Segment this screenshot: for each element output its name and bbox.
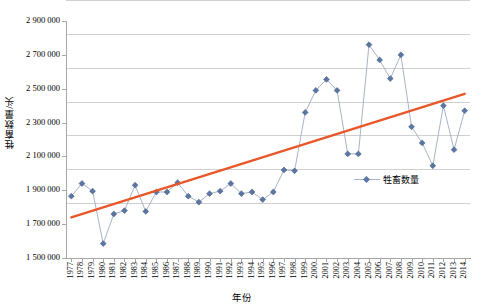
data-point-marker	[334, 88, 340, 94]
x-tick-label: 1983	[131, 262, 139, 278]
data-point-marker	[260, 197, 266, 203]
data-point-marker	[90, 188, 96, 194]
y-tick-label: 1 900 000	[0, 185, 60, 194]
data-point-marker	[324, 77, 330, 83]
x-tick-label: 1994	[248, 262, 256, 278]
x-tick-label: 1989	[194, 262, 202, 278]
x-tick-label: 1979	[88, 262, 96, 278]
y-tick-label: 2 900 000	[0, 16, 60, 25]
gridline-horizontal	[66, 0, 470, 1]
x-tick-label: 1997	[279, 262, 287, 278]
data-point-marker	[398, 52, 404, 58]
x-tick-label: 1981	[109, 262, 117, 278]
x-tick-label: 2004	[354, 262, 362, 278]
data-point-marker	[419, 140, 425, 146]
data-point-marker	[68, 193, 74, 199]
series-markers	[68, 42, 467, 247]
x-tick-label: 1996	[269, 262, 277, 278]
legend-label-livestock: 牲畜数量	[383, 173, 419, 186]
y-tick-label: 2 100 000	[0, 151, 60, 160]
data-point-marker	[100, 241, 106, 247]
gridline-horizontal	[66, 68, 470, 69]
data-point-marker	[313, 88, 319, 94]
data-point-marker	[111, 211, 117, 217]
x-tick-label: 2008	[396, 262, 404, 278]
x-tick-label: 2000	[311, 262, 319, 278]
data-point-marker	[451, 147, 457, 153]
data-point-marker	[387, 76, 393, 82]
x-tick-label: 1993	[237, 262, 245, 278]
x-tick-label: 2014	[460, 262, 468, 278]
data-point-marker	[366, 42, 372, 48]
x-tick-label: 1978	[77, 262, 85, 278]
data-point-marker	[143, 209, 149, 215]
x-tick-label: 2003	[343, 262, 351, 278]
data-point-marker	[79, 181, 85, 187]
x-tick-label: 1987	[173, 262, 181, 278]
y-tick-label: 1 700 000	[0, 219, 60, 228]
livestock-line-chart: 牲畜数量/头 1 500 0001 700 0001 900 0002 100 …	[0, 0, 483, 308]
x-axis-line	[66, 258, 471, 259]
data-point-marker	[207, 191, 213, 197]
chart-legend: 牲畜数量	[352, 172, 421, 187]
x-tick-label: 1986	[163, 262, 171, 278]
data-point-marker	[196, 199, 202, 205]
x-tick-label: 2013	[450, 262, 458, 278]
data-point-marker	[302, 110, 308, 116]
data-point-marker	[249, 189, 255, 195]
data-point-marker	[462, 108, 468, 114]
data-point-marker	[377, 57, 383, 63]
gridline-horizontal	[66, 169, 470, 170]
data-point-marker	[228, 181, 234, 187]
y-tick-label: 2 700 000	[0, 50, 60, 59]
gridline-horizontal	[66, 135, 470, 136]
data-point-marker	[270, 189, 276, 195]
data-point-marker	[122, 208, 128, 214]
x-tick-label: 2010	[418, 262, 426, 278]
x-tick-label: 2012	[439, 262, 447, 278]
x-tick-label: 2011	[428, 262, 436, 278]
data-point-marker	[153, 189, 159, 195]
x-tick-label: 1995	[258, 262, 266, 278]
x-tick-label: 1998	[290, 262, 298, 278]
data-point-marker	[217, 188, 223, 194]
gridline-horizontal	[66, 34, 470, 35]
legend-marker-icon	[354, 175, 380, 184]
x-tick-label: 1988	[184, 262, 192, 278]
data-point-marker	[345, 151, 351, 157]
gridline-horizontal	[66, 203, 470, 204]
gridline-horizontal	[66, 102, 470, 103]
data-point-marker	[164, 189, 170, 195]
x-tick-label: 1977	[67, 262, 75, 278]
data-point-marker	[441, 103, 447, 109]
x-tick-label: 1980	[99, 262, 107, 278]
x-tick-label: 2005	[365, 262, 373, 278]
x-tick-label: 1992	[226, 262, 234, 278]
x-tick-label: 1999	[301, 262, 309, 278]
data-point-marker	[132, 182, 138, 188]
data-point-marker	[239, 191, 245, 197]
data-point-marker	[185, 193, 191, 199]
x-tick-label: 2007	[386, 262, 394, 278]
x-tick-label: 1984	[141, 262, 149, 278]
y-tick-label: 2 500 000	[0, 84, 60, 93]
x-tick-label: 2001	[322, 262, 330, 278]
data-point-marker	[430, 163, 436, 169]
y-tick-label: 1 500 000	[0, 253, 60, 262]
data-point-marker	[355, 151, 361, 157]
y-tick-label: 2 300 000	[0, 118, 60, 127]
y-axis-line	[66, 21, 67, 259]
x-tick-label: 2002	[333, 262, 341, 278]
x-axis-title: 年份	[0, 290, 483, 304]
trendline	[71, 94, 464, 218]
x-tick-label: 1982	[120, 262, 128, 278]
series-polyline	[71, 45, 464, 244]
data-point-marker	[409, 124, 415, 130]
x-tick-label: 2006	[375, 262, 383, 278]
x-tick-label: 2009	[407, 262, 415, 278]
x-tick-label: 1991	[216, 262, 224, 278]
x-tick-label: 1985	[152, 262, 160, 278]
x-tick-label: 1990	[205, 262, 213, 278]
data-point-marker	[175, 180, 181, 186]
